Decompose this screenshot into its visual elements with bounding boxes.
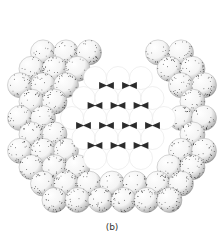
outer-sphere <box>88 188 113 213</box>
stipple-dot <box>204 95 205 96</box>
stipple-dot <box>63 160 64 161</box>
stipple-dot <box>49 102 50 103</box>
stipple-dot <box>57 153 58 154</box>
stipple-dot <box>42 138 43 139</box>
stipple-dot <box>188 80 189 81</box>
stipple-dot <box>80 185 81 186</box>
stipple-dot <box>66 68 67 69</box>
stipple-dot <box>82 157 83 158</box>
stipple-dot <box>51 205 52 206</box>
stipple-dot <box>195 178 196 179</box>
stipple-dot <box>111 196 112 197</box>
stipple-dot <box>72 56 73 57</box>
stipple-dot <box>65 158 66 159</box>
stipple-dot <box>38 60 39 61</box>
stipple-dot <box>77 183 78 184</box>
stipple-dot <box>26 121 27 122</box>
stipple-dot <box>144 190 145 191</box>
stipple-dot <box>22 155 23 156</box>
stipple-dot <box>37 174 38 175</box>
stipple-dot <box>81 172 82 173</box>
stipple-dot <box>73 159 74 160</box>
stipple-dot <box>186 54 187 55</box>
stipple-dot <box>177 169 178 170</box>
stipple-dot <box>167 66 168 67</box>
stipple-dot <box>52 90 53 91</box>
stipple-dot <box>201 164 202 165</box>
stipple-dot <box>37 175 38 176</box>
stipple-dot <box>63 107 64 108</box>
stipple-dot <box>45 124 46 125</box>
stipple-dot <box>200 71 201 72</box>
stipple-dot <box>168 178 169 179</box>
stipple-dot <box>201 160 202 161</box>
stipple-dot <box>42 165 43 166</box>
stipple-dot <box>38 125 39 126</box>
stipple-dot <box>170 84 171 85</box>
stipple-dot <box>185 93 186 94</box>
stipple-dot <box>53 206 54 207</box>
stipple-dot <box>50 144 51 145</box>
stipple-dot <box>196 76 197 77</box>
stipple-dot <box>33 111 34 112</box>
stipple-dot <box>16 158 17 159</box>
stipple-dot <box>39 193 40 194</box>
stipple-dot <box>49 70 50 71</box>
stipple-dot <box>183 171 184 172</box>
stipple-dot <box>76 53 77 54</box>
stipple-dot <box>161 72 162 73</box>
stipple-dot <box>169 54 170 55</box>
stipple-dot <box>51 118 52 119</box>
stipple-dot <box>69 61 70 62</box>
stipple-dot <box>67 73 68 74</box>
stipple-dot <box>60 144 61 145</box>
stipple-dot <box>90 61 91 62</box>
stipple-dot <box>54 72 55 73</box>
stipple-dot <box>48 169 49 170</box>
stipple-dot <box>207 161 208 162</box>
stipple-dot <box>214 151 215 152</box>
stipple-dot <box>44 205 45 206</box>
stipple-dot <box>55 83 56 84</box>
stipple-dot <box>199 174 200 175</box>
stipple-dot <box>34 140 35 141</box>
stipple-dot <box>28 178 29 179</box>
stipple-dot <box>59 76 60 77</box>
stipple-dot <box>83 60 84 61</box>
stipple-dot <box>47 141 48 142</box>
stipple-dot <box>178 129 179 130</box>
stipple-dot <box>22 142 23 143</box>
stipple-dot <box>179 57 180 58</box>
stipple-dot <box>35 77 36 78</box>
stipple-dot <box>38 160 39 161</box>
stipple-dot <box>189 154 190 155</box>
stipple-dot <box>186 189 187 190</box>
stipple-dot <box>203 162 204 163</box>
stipple-dot <box>105 190 106 191</box>
stipple-dot <box>26 146 27 147</box>
stipple-dot <box>195 60 196 61</box>
stipple-dot <box>97 58 98 59</box>
stipple-dot <box>33 105 34 106</box>
stipple-dot <box>83 43 84 44</box>
stipple-dot <box>197 166 198 167</box>
stipple-dot <box>162 192 163 193</box>
stipple-dot <box>154 192 155 193</box>
stipple-dot <box>62 202 63 203</box>
stipple-dot <box>195 144 196 145</box>
stipple-dot <box>181 197 182 198</box>
stipple-dot <box>186 86 187 87</box>
stipple-dot <box>27 158 28 159</box>
stipple-dot <box>79 198 80 199</box>
stipple-dot <box>35 94 36 95</box>
stipple-dot <box>31 77 32 78</box>
stipple-dot <box>27 79 28 80</box>
stipple-dot <box>199 167 200 168</box>
stipple-dot <box>25 74 26 75</box>
stipple-dot <box>189 159 190 160</box>
stipple-dot <box>75 150 76 151</box>
stipple-dot <box>51 50 52 51</box>
stipple-dot <box>166 58 167 59</box>
stipple-dot <box>62 107 63 108</box>
stipple-dot <box>201 75 202 76</box>
